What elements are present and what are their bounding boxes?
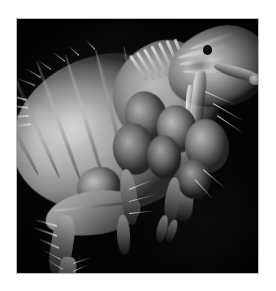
page-canvas: [0, 0, 276, 291]
palp-tip: [249, 74, 258, 85]
sem-micrograph-image: [17, 19, 258, 273]
micrograph-frame: [16, 18, 259, 274]
